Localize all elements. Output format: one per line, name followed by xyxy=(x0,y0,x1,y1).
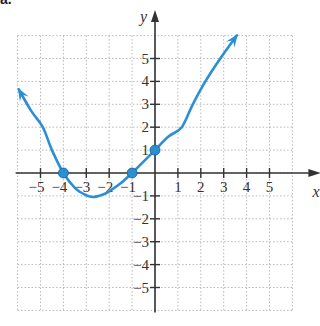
tick-labels: −5−4−3−2−112345−5−4−3−2−112345xy xyxy=(29,8,320,296)
y-tick-label: −2 xyxy=(133,211,149,227)
axes xyxy=(16,10,320,312)
x-tick-label: 4 xyxy=(243,179,251,195)
marked-point xyxy=(58,168,68,178)
x-tick-label: 2 xyxy=(197,179,205,195)
x-tick-label: 5 xyxy=(266,179,274,195)
y-tick-label: 4 xyxy=(142,73,150,89)
function-graph: −5−4−3−2−112345−5−4−3−2−112345xy xyxy=(0,0,320,326)
y-tick-label: −3 xyxy=(133,234,149,250)
marked-point xyxy=(127,168,137,178)
y-tick-label: −1 xyxy=(133,188,149,204)
y-tick-label: 5 xyxy=(142,51,150,67)
y-tick-label: −4 xyxy=(133,257,149,273)
y-tick-label: −5 xyxy=(133,280,149,296)
y-axis-arrow-icon xyxy=(151,10,159,22)
x-axis-arrow-icon xyxy=(308,169,320,177)
marked-point xyxy=(150,145,160,155)
y-tick-label: 2 xyxy=(142,119,150,135)
x-tick-label: 1 xyxy=(174,179,182,195)
x-tick-label: −5 xyxy=(29,179,45,195)
y-tick-label: 3 xyxy=(142,96,150,112)
x-tick-label: −4 xyxy=(51,179,67,195)
x-tick-label: 3 xyxy=(220,179,228,195)
y-axis-label: y xyxy=(138,8,148,26)
x-axis-label: x xyxy=(311,183,319,200)
